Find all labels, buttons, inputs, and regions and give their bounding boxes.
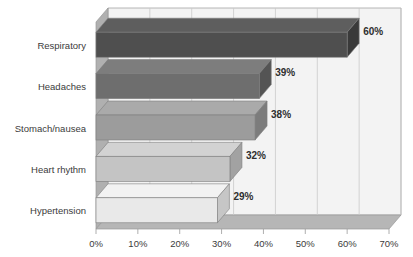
bar-value-label: 29% xyxy=(233,191,253,202)
bar-chart: 60%Respiratory39%Headaches38%Stomach/nau… xyxy=(0,0,413,257)
x-axis: 0%10%20%30%40%50%60%70% xyxy=(89,229,399,249)
bar[interactable] xyxy=(96,18,359,57)
x-tick-label: 30% xyxy=(212,238,232,249)
x-tick-label: 70% xyxy=(379,238,399,249)
bar-value-label: 32% xyxy=(246,150,266,161)
category-label: Heart rhythm xyxy=(31,164,86,175)
x-tick-label: 10% xyxy=(128,238,148,249)
x-tick-label: 50% xyxy=(296,238,316,249)
bar[interactable] xyxy=(96,142,242,181)
bar-value-label: 38% xyxy=(271,109,291,120)
bar-top-face xyxy=(96,101,267,115)
bar-front-face xyxy=(96,74,259,99)
bar[interactable] xyxy=(96,184,229,223)
x-tick-label: 0% xyxy=(89,238,103,249)
bar-value-label: 39% xyxy=(275,67,295,78)
x-tick-label: 20% xyxy=(170,238,190,249)
bar-top-face xyxy=(96,142,242,156)
x-tick-label: 60% xyxy=(338,238,358,249)
bar-value-label: 60% xyxy=(363,26,383,37)
bar-front-face xyxy=(96,115,255,140)
x-tick-label: 40% xyxy=(254,238,274,249)
category-label: Respiratory xyxy=(37,40,86,51)
bar-top-face xyxy=(96,184,229,198)
chart-canvas: 60%Respiratory39%Headaches38%Stomach/nau… xyxy=(0,0,413,257)
bar-front-face xyxy=(96,156,230,181)
bar[interactable] xyxy=(96,60,271,99)
category-label: Stomach/nausea xyxy=(15,123,87,134)
bar-top-face xyxy=(96,18,359,32)
bar-front-face xyxy=(96,198,217,223)
category-label: Hypertension xyxy=(30,205,86,216)
bar-top-face xyxy=(96,60,271,74)
category-label: Headaches xyxy=(38,81,86,92)
bar-front-face xyxy=(96,32,347,57)
bar[interactable] xyxy=(96,101,267,140)
